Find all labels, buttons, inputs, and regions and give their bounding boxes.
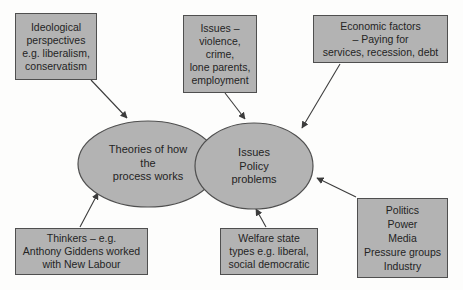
box-thinkers: Thinkers – e.g. Anthony Giddens worked w… xyxy=(15,228,148,275)
box-politics-power-label: Politics Power Media Pressure groups Ind… xyxy=(364,203,441,273)
arrow-welfare-to-issues-policy xyxy=(256,209,266,227)
box-politics-power: Politics Power Media Pressure groups Ind… xyxy=(357,198,448,278)
box-ideological-perspectives-label: Ideological perspectives e.g. liberalism… xyxy=(22,21,90,73)
box-ideological-perspectives: Ideological perspectives e.g. liberalism… xyxy=(15,13,97,80)
arrow-ideological-to-theories xyxy=(91,80,127,118)
diagram-canvas: Theories of how the process works Issues… xyxy=(0,0,463,290)
arrow-issues-to-issues-policy xyxy=(225,93,245,119)
box-thinkers-label: Thinkers – e.g. Anthony Giddens worked w… xyxy=(23,232,140,271)
arrow-economic-to-issues-policy xyxy=(302,64,340,128)
box-issues-label: Issues – violence, crime, lone parents, … xyxy=(190,22,251,87)
arrow-politics-to-issues-policy xyxy=(317,178,356,197)
ellipse-label-issues-policy: Issues Policy problems xyxy=(204,146,304,187)
box-issues: Issues – violence, crime, lone parents, … xyxy=(183,15,257,93)
box-economic-factors-label: Economic factors – Paying for services, … xyxy=(323,20,439,59)
arrow-thinkers-to-theories xyxy=(80,193,98,227)
ellipse-label-theories: Theories of how the process works xyxy=(88,143,208,184)
box-economic-factors: Economic factors – Paying for services, … xyxy=(313,15,448,63)
box-welfare-state-types: Welfare state types e.g. liberal, social… xyxy=(220,228,318,275)
box-welfare-state-types-label: Welfare state types e.g. liberal, social… xyxy=(228,232,309,271)
